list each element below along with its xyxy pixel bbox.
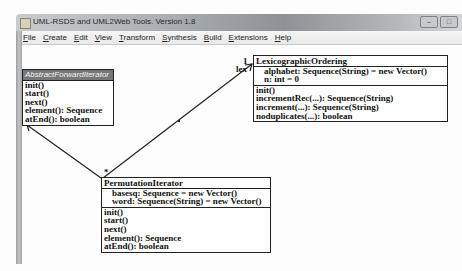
association-midpoint-marker [178,120,180,122]
operation: start() [104,216,268,225]
class-name: LexicographicOrdering [254,56,447,67]
attributes-compartment: basesq: Sequence = new Vector() word: Se… [102,189,270,208]
operations-compartment: init() incrementRec(...): Sequence(Strin… [254,86,447,121]
class-name: PermutationIterator [102,178,270,189]
operations-compartment: init() start() next() element(): Sequenc… [23,81,113,125]
operation: init() [104,208,268,217]
association-line[interactable] [103,64,252,178]
operation: atEnd(): boolean [25,115,111,124]
inheritance-line[interactable] [27,125,101,178]
attribute: word: Sequence(String) = new Vector() [112,197,268,206]
class-box-abstract-forward-iterator[interactable]: AbstractForwardIterator init() start() n… [22,69,114,126]
class-box-permutation-iterator[interactable]: PermutationIterator basesq: Sequence = n… [101,177,271,253]
attributes-compartment: alphabet: Sequence(String) = new Vector(… [254,67,447,86]
attribute: n: int = 0 [264,75,445,84]
class-name: AbstractForwardIterator [23,70,113,81]
association-target-role: lex [236,64,247,74]
operation: atEnd(): boolean [104,242,268,251]
operations-compartment: init() start() next() element(): Sequenc… [102,208,270,252]
association-source-multiplicity: * [104,167,109,177]
operation: noduplicates(...): boolean [256,112,445,121]
class-box-lexicographic-ordering[interactable]: LexicographicOrdering alphabet: Sequence… [253,55,448,122]
